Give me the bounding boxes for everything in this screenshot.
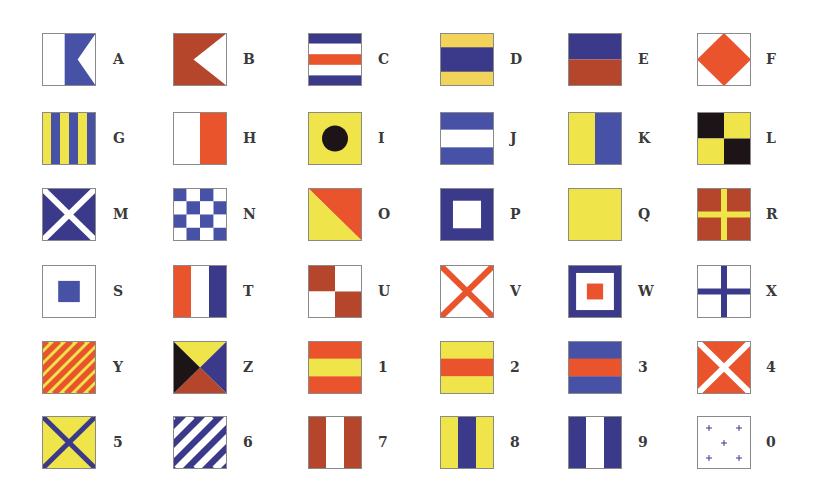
flag-label: Y [113, 358, 123, 376]
flag-label: P [510, 205, 521, 223]
flag-label: O [378, 205, 390, 223]
flag-item: J [440, 112, 570, 172]
flag-u-icon [308, 265, 362, 318]
flag-label: 9 [638, 433, 648, 451]
flag-x-icon [697, 265, 751, 318]
flag-item: U [308, 265, 438, 325]
flag-item: X [697, 265, 819, 325]
flag-5-icon [42, 416, 96, 469]
flag-label: T [243, 282, 253, 300]
flag-item: 9 [568, 416, 698, 476]
flag-label: S [113, 282, 123, 300]
flag-label: L [766, 129, 776, 147]
flag-3-icon [568, 341, 622, 394]
flag-label: 6 [243, 433, 253, 451]
flag-item: W [568, 265, 698, 325]
flag-item: S [42, 265, 172, 325]
flag-item: A [42, 33, 172, 93]
flag-label: 7 [378, 433, 388, 451]
flag-label: 2 [510, 358, 520, 376]
flag-v-icon [440, 265, 494, 318]
flag-label: N [243, 205, 256, 223]
flag-item: 8 [440, 416, 570, 476]
flag-p-icon [440, 188, 494, 241]
flag-l-icon [697, 112, 751, 165]
flag-label: 1 [378, 358, 388, 376]
flag-item: 7 [308, 416, 438, 476]
flag-i-icon [308, 112, 362, 165]
flag-m-icon [42, 188, 96, 241]
flag-item: 4 [697, 341, 819, 401]
flag-item: 2 [440, 341, 570, 401]
flag-n-icon [173, 188, 227, 241]
flag-d-icon [440, 33, 494, 86]
flag-r-icon [697, 188, 751, 241]
flag-label: 4 [766, 358, 776, 376]
flag-label: F [766, 50, 776, 68]
flag-7-icon [308, 416, 362, 469]
flag-label: 3 [638, 358, 648, 376]
flag-label: K [638, 129, 650, 147]
flag-label: W [638, 282, 654, 300]
flag-label: Z [243, 358, 253, 376]
flag-item: Y [42, 341, 172, 401]
flag-label: C [378, 50, 389, 68]
flag-item: 5 [42, 416, 172, 476]
flag-item: 6 [173, 416, 303, 476]
flag-0-icon [697, 416, 751, 469]
flag-item: M [42, 188, 172, 248]
flag-k-icon [568, 112, 622, 165]
flag-item: 0 [697, 416, 819, 476]
flag-item: 1 [308, 341, 438, 401]
flag-label: V [510, 282, 521, 300]
flag-z-icon [173, 341, 227, 394]
flag-4-icon [697, 341, 751, 394]
flag-o-icon [308, 188, 362, 241]
flag-item: V [440, 265, 570, 325]
flag-a-icon [42, 33, 96, 86]
flag-label: B [243, 50, 255, 68]
flag-item: I [308, 112, 438, 172]
flag-item: 3 [568, 341, 698, 401]
flag-label: R [766, 205, 778, 223]
flag-9-icon [568, 416, 622, 469]
flag-label: G [113, 129, 125, 147]
flag-label: H [243, 129, 256, 147]
flag-6-icon [173, 416, 227, 469]
flag-c-icon [308, 33, 362, 86]
flag-item: L [697, 112, 819, 172]
flag-1-icon [308, 341, 362, 394]
flag-item: N [173, 188, 303, 248]
flag-e-icon [568, 33, 622, 86]
flag-item: K [568, 112, 698, 172]
flag-item: H [173, 112, 303, 172]
flag-label: 5 [113, 433, 123, 451]
flag-t-icon [173, 265, 227, 318]
flag-label: D [510, 50, 522, 68]
flag-item: R [697, 188, 819, 248]
flag-s-icon [42, 265, 96, 318]
flag-2-icon [440, 341, 494, 394]
flag-item: C [308, 33, 438, 93]
flag-label: E [638, 50, 649, 68]
flag-item: P [440, 188, 570, 248]
flag-q-icon [568, 188, 622, 241]
flag-item: Z [173, 341, 303, 401]
flag-item: D [440, 33, 570, 93]
flag-b-icon [173, 33, 227, 86]
flag-label: Q [638, 205, 650, 223]
flag-w-icon [568, 265, 622, 318]
flag-8-icon [440, 416, 494, 469]
flag-item: T [173, 265, 303, 325]
flag-h-icon [173, 112, 227, 165]
flag-label: M [113, 205, 129, 223]
flag-item: E [568, 33, 698, 93]
flag-label: 8 [510, 433, 520, 451]
flag-g-icon [42, 112, 96, 165]
flag-j-icon [440, 112, 494, 165]
flag-label: A [113, 50, 124, 68]
flag-label: J [510, 129, 517, 147]
flag-label: 0 [766, 433, 776, 451]
flag-item: G [42, 112, 172, 172]
flag-f-icon [697, 33, 751, 86]
